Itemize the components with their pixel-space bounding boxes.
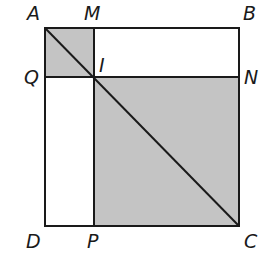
label-N: N — [244, 66, 258, 88]
label-M: M — [84, 2, 100, 24]
label-C: C — [244, 230, 258, 252]
label-D: D — [26, 230, 41, 252]
label-I: I — [99, 54, 105, 76]
label-Q: Q — [24, 66, 39, 88]
label-B: B — [243, 2, 256, 24]
geometry-diagram: A M B Q I N D P C — [0, 0, 274, 258]
label-P: P — [87, 230, 99, 252]
label-A: A — [25, 2, 40, 24]
